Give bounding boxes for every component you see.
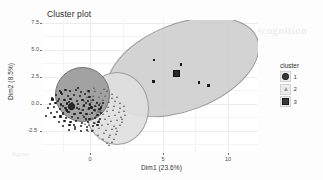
data-point-cluster-1: [53, 116, 55, 118]
data-point-cluster-1: [100, 106, 102, 108]
data-point-cluster-1: [86, 129, 88, 131]
data-point-cluster-2: [123, 105, 125, 107]
data-point-cluster-2: [108, 115, 110, 117]
legend-key-square-icon: [280, 96, 291, 107]
data-point-cluster-2: [103, 88, 105, 90]
legend-key-triangle-icon: [280, 84, 291, 95]
data-point-cluster-1: [47, 107, 49, 109]
data-point-cluster-1: [83, 104, 85, 106]
ytick-mark: [40, 23, 42, 24]
ytick-mark: [40, 104, 42, 105]
data-point-cluster-2: [105, 129, 107, 131]
data-point-cluster-2: [106, 90, 108, 92]
data-point-cluster-2: [86, 96, 88, 98]
data-point-cluster-1: [82, 109, 84, 111]
y-axis-title: Dim2 (8.5%): [7, 50, 14, 114]
ytick-mark: [40, 131, 42, 132]
data-point-cluster-2: [97, 134, 99, 136]
ytick-label-0.0: 0.0: [23, 100, 39, 106]
data-point-cluster-1: [92, 125, 94, 127]
data-point-cluster-1: [102, 102, 104, 104]
data-point-cluster-1: [89, 103, 91, 105]
data-point-cluster-1: [59, 115, 61, 117]
centroid-cluster-3: [173, 70, 180, 77]
data-point-cluster-1: [80, 130, 82, 132]
data-point-cluster-2: [118, 111, 120, 113]
legend-label-3: 3: [294, 99, 297, 105]
xtick-label-5: 5: [155, 156, 171, 162]
data-point-cluster-1: [73, 94, 75, 96]
data-point-cluster-2: [98, 127, 100, 129]
legend-label-1: 1: [294, 74, 297, 80]
legend-item-3[interactable]: 3: [280, 96, 320, 107]
data-point-cluster-2: [121, 121, 123, 123]
data-point-cluster-1: [73, 113, 75, 115]
data-point-cluster-1: [93, 109, 95, 111]
data-point-cluster-2: [121, 118, 123, 120]
data-point-cluster-2: [98, 96, 100, 98]
data-point-cluster-2: [93, 87, 95, 89]
data-point-cluster-2: [112, 109, 114, 111]
data-point-cluster-1: [63, 99, 65, 101]
data-point-cluster-2: [123, 110, 125, 112]
data-point-cluster-2: [114, 100, 116, 102]
chart-title: Cluster plot: [47, 9, 91, 19]
plot-panel: [43, 20, 258, 152]
xtick-mark: [90, 153, 91, 155]
cluster-plot-figure: Cluster plot 7.5 5.0 2.5 0.0 -2.5: [0, 0, 323, 180]
data-point-cluster-2: [102, 138, 104, 140]
data-point-cluster-1: [87, 121, 89, 123]
ytick-label-2.5: 2.5: [23, 73, 39, 79]
data-point-cluster-2: [103, 132, 105, 134]
data-point-cluster-2: [115, 133, 117, 135]
data-point-cluster-2: [108, 136, 110, 138]
data-point-cluster-1: [53, 106, 55, 108]
data-point-cluster-2: [116, 119, 118, 121]
centroid-cluster-1: [68, 103, 74, 109]
data-point-cluster-2: [111, 93, 113, 95]
data-point-cluster-2: [94, 90, 96, 92]
data-point-cluster-1: [63, 120, 65, 122]
data-point-cluster-1: [96, 114, 98, 116]
data-point-cluster-2: [110, 120, 112, 122]
data-point-cluster-2: [113, 105, 115, 107]
data-point-cluster-1: [97, 121, 99, 123]
data-point-cluster-1: [56, 111, 58, 113]
data-point-cluster-2: [124, 114, 126, 116]
data-point-cluster-2: [111, 141, 113, 143]
data-point-cluster-2: [116, 96, 118, 98]
data-point-cluster-1: [80, 125, 82, 127]
data-point-cluster-2: [114, 114, 116, 116]
x-axis-title: Dim1 (23.6%): [0, 164, 323, 171]
legend-item-1[interactable]: 1: [280, 71, 320, 82]
data-point-cluster-1: [50, 112, 52, 114]
data-point-cluster-1: [65, 117, 67, 119]
data-point-cluster-1: [90, 106, 92, 108]
data-point-cluster-1: [60, 91, 62, 93]
legend-item-2[interactable]: 2: [280, 84, 320, 95]
gridline-y--2.5: [43, 131, 258, 132]
data-point-cluster-2: [107, 123, 109, 125]
data-point-cluster-2: [108, 101, 110, 103]
data-point-cluster-2: [104, 95, 106, 97]
data-point-cluster-1: [76, 100, 78, 102]
ytick-mark: [40, 77, 42, 78]
data-point-cluster-1: [86, 126, 88, 128]
data-point-cluster-1: [64, 89, 66, 91]
data-point-cluster-2: [100, 92, 102, 94]
ytick-label--2.5: -2.5: [21, 127, 37, 133]
data-point-cluster-2: [92, 95, 94, 97]
legend-title: cluster: [280, 62, 320, 69]
data-point-cluster-1: [62, 125, 64, 127]
data-point-cluster-2: [119, 124, 121, 126]
data-point-cluster-3: [198, 81, 201, 84]
data-point-cluster-1: [79, 112, 81, 114]
data-point-cluster-3: [207, 84, 210, 87]
data-point-cluster-1: [88, 118, 90, 120]
legend-label-2: 2: [294, 86, 297, 92]
data-point-cluster-1: [81, 122, 83, 124]
xtick-mark: [163, 153, 164, 155]
ytick-label-5.0: 5.0: [23, 46, 39, 52]
data-point-cluster-1: [54, 102, 56, 104]
data-point-cluster-1: [58, 121, 60, 123]
